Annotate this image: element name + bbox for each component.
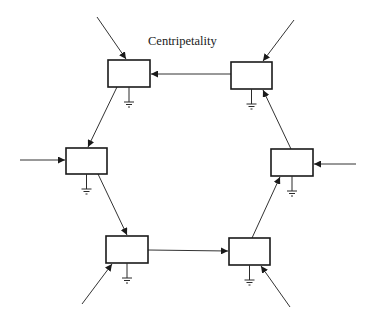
ground-icon: [247, 89, 257, 109]
node-bottom-right: [229, 238, 270, 285]
edge-top-left-to-middle-left: [88, 87, 117, 147]
node-top-right: [231, 62, 272, 109]
node-top-left: [108, 60, 150, 107]
ground-icon: [245, 265, 255, 285]
arrow-line: [263, 20, 294, 61]
arrow-line: [88, 87, 117, 147]
ground-icon: [122, 263, 132, 283]
ground-icon: [287, 176, 297, 196]
node-box: [231, 62, 272, 89]
input-arrow-bottom-right: [261, 266, 290, 307]
node-box: [229, 238, 270, 265]
arrow-line: [97, 17, 126, 59]
ground-icon: [82, 174, 92, 194]
edge-middle-right-to-top-right: [263, 90, 291, 149]
ground-icon: [124, 87, 134, 107]
node-box: [108, 60, 150, 87]
diagram-title: Centripetality: [148, 34, 217, 49]
arrow-line: [98, 174, 127, 235]
input-arrow-top-right: [263, 20, 294, 61]
edge-bottom-left-to-bottom-right: [148, 250, 228, 251]
input-arrow-bottom-left: [82, 264, 112, 304]
node-middle-left: [66, 148, 107, 194]
node-bottom-left: [106, 236, 148, 283]
node-box: [66, 148, 107, 174]
edge-bottom-right-to-middle-right: [252, 177, 280, 238]
node-box: [271, 149, 313, 176]
arrow-line: [82, 264, 112, 304]
internal-edges: [88, 74, 291, 251]
input-arrow-top-left: [97, 17, 126, 59]
node-middle-right: [271, 149, 313, 196]
arrow-line: [261, 266, 290, 307]
node-box: [106, 236, 148, 263]
edge-middle-left-to-bottom-left: [98, 174, 127, 235]
arrow-line: [263, 90, 291, 149]
nodes: [66, 60, 313, 285]
arrow-line: [252, 177, 280, 238]
arrow-line: [148, 250, 228, 251]
